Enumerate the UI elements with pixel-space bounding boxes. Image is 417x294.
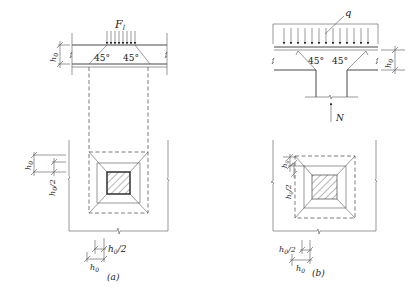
diagram-canvas: Fl 45° 45° h0 [0, 0, 417, 294]
plan-dim-left-a: h0 h0/2 [24, 152, 66, 196]
load-arrows-b [273, 16, 378, 44]
column-section-a [107, 172, 130, 194]
plan-dim-h0-a: h0 [24, 161, 34, 170]
thickness-dim-b: h0 [381, 46, 405, 74]
figure-b: q 45° 45° h0 N [271, 7, 405, 278]
angle-left-b: 45° [308, 56, 324, 66]
bottom-dim-h0-b: h0 [296, 264, 305, 274]
plan-dim-h0half-b: h0/2 [285, 184, 294, 199]
thickness-label-b: h0 [384, 59, 394, 68]
column-section-b [312, 175, 337, 199]
bottom-dim-h0half-b: h0/2 [279, 245, 296, 255]
angle-right-b: 45° [332, 56, 348, 66]
caption-a: (a) [107, 272, 120, 282]
plan-dim-left-b: h0 h0/2 [281, 154, 305, 199]
load-label-b: q [345, 7, 351, 18]
bottom-dim-b: h0/2 h0 [279, 240, 313, 274]
load-label-a: Fl [114, 18, 125, 32]
bottom-dim-h0-a: h0 [90, 263, 99, 273]
axial-label-b: N [335, 113, 345, 123]
plan-view-a [68, 140, 169, 234]
slab-elevation-a [70, 33, 167, 75]
load-arrows-a [107, 31, 135, 44]
bottom-dim-h0half-a: h0/2 [108, 244, 127, 255]
thickness-label-a: h0 [49, 53, 59, 62]
plan-dim-h0half-a: h0/2 [48, 179, 58, 196]
figure-a: Fl 45° 45° h0 [24, 18, 169, 282]
slab-elevation-b [272, 47, 378, 99]
angle-right-a: 45° [123, 53, 139, 63]
caption-b: (b) [312, 268, 325, 278]
thickness-dim-a: h0 [49, 41, 70, 68]
bottom-dim-a: h0/2 h0 [84, 238, 127, 273]
angle-left-a: 45° [94, 53, 110, 63]
plan-dim-h0-b: h0 [281, 159, 290, 168]
